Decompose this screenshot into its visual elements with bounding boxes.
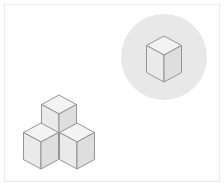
single-cube <box>147 36 182 82</box>
front-left-cube <box>24 123 59 169</box>
front-right-cube <box>60 123 95 169</box>
figure-container: Isometric cube arrangement with highligh… <box>0 0 224 186</box>
cube-figure-svg: Isometric cube arrangement with highligh… <box>0 0 224 186</box>
cube-group-three <box>24 95 95 169</box>
